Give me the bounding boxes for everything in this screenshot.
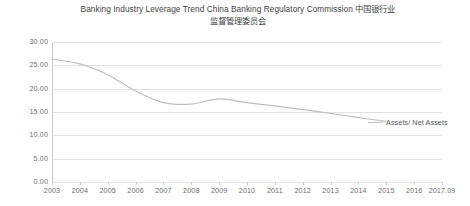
x-axis-tick-mark [275,182,276,185]
x-axis-tick-mark [331,182,332,185]
x-axis-tick-label: 2015 [378,186,394,195]
x-axis-tick-mark [80,182,81,185]
x-axis-tick-label: 2016 [406,186,422,195]
series-assets-net-assets [52,42,442,182]
chart-title-line-1: Banking Industry Leverage Trend China Ba… [81,4,396,14]
x-axis-tick-mark [108,182,109,185]
plot-area [52,42,442,182]
x-axis-tick-label: 2010 [239,186,255,195]
x-axis-tick-label: 2013 [322,186,338,195]
chart-title: Banking Industry Leverage Trend China Ba… [48,3,428,27]
x-axis-tick-label: 2005 [100,186,116,195]
series-line-path [52,59,386,121]
y-axis-tick-label: 20.00 [4,85,48,93]
x-axis-tick-label: 2008 [183,186,199,195]
y-axis-tick-label: 5.00 [4,155,48,163]
x-axis-labels: 2003200420052006200720082009201020112012… [0,186,470,202]
x-axis-tick-mark [414,182,415,185]
x-axis-tick-label: 2004 [72,186,88,195]
x-axis-tick-label: 2006 [127,186,143,195]
x-axis-tick-label: 2012 [295,186,311,195]
x-axis-tick-mark [52,182,53,185]
series-label-line-marker [368,122,383,123]
line-chart: Banking Industry Leverage Trend China Ba… [0,0,470,206]
x-axis-tick-mark [219,182,220,185]
y-axis-tick-label: 30.00 [4,38,48,46]
x-axis-tick-label: 2007 [155,186,171,195]
x-axis-tick-mark [136,182,137,185]
y-axis-labels: 0.005.0010.0015.0020.0025.0030.00 [0,0,48,206]
x-axis-tick-mark [163,182,164,185]
x-axis-tick-mark [358,182,359,185]
x-axis-tick-label: 2014 [350,186,366,195]
x-axis-tick-mark [247,182,248,185]
x-axis-tick-label: 2003 [44,186,60,195]
x-axis-tick-mark [191,182,192,185]
x-axis-tick-label: 2011 [267,186,283,195]
y-axis-tick-label: 25.00 [4,61,48,69]
x-axis-tick-label: 2017.09 [429,186,456,195]
y-axis-tick-label: 10.00 [4,131,48,139]
series-label: Assets/ Net Assets [386,118,448,127]
y-axis-tick-label: 15.00 [4,108,48,116]
x-axis-tick-label: 2009 [211,186,227,195]
x-axis-tick-mark [386,182,387,185]
chart-title-line-2: 监督管理委员会 [210,16,266,26]
y-axis-tick-label: 0.00 [4,178,48,186]
x-axis-tick-mark [442,182,443,185]
x-axis-tick-mark [303,182,304,185]
